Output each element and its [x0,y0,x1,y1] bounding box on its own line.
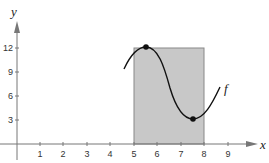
x-axis-arrow-icon [246,141,258,147]
y-tick-label: 9 [8,67,13,77]
x-tick-label: 8 [201,149,206,159]
curve-label: f [224,81,230,96]
x-tick-label: 4 [107,149,112,159]
x-tick-label: 1 [37,149,42,159]
y-axis-label: y [9,4,17,19]
x-tick-label: 3 [84,149,89,159]
x-tick-label: 7 [178,149,183,159]
x-axis-label: x [259,137,266,152]
x-tick-label: 9 [225,149,230,159]
y-tick-label: 3 [8,115,13,125]
y-tick-label: 12 [3,43,13,53]
x-tick-label: 5 [131,149,136,159]
chart: 1 2 3 4 5 6 7 8 9 3 6 9 12 x y f [0,0,269,163]
x-tick-label: 6 [154,149,159,159]
shaded-rectangle [134,48,204,144]
x-tick-label: 2 [60,149,65,159]
y-tick-label: 6 [8,91,13,101]
maximum-point [143,44,149,50]
minimum-point [190,116,196,122]
y-axis-arrow-icon [14,21,20,33]
